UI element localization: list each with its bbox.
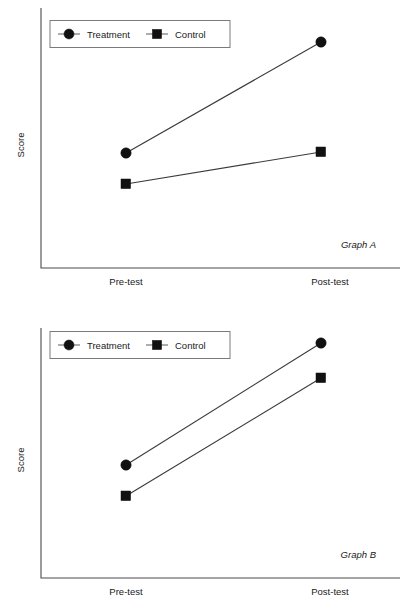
circle-marker-icon <box>64 29 74 39</box>
graph-a-treatment-line <box>126 42 321 153</box>
square-marker-icon <box>152 340 161 349</box>
graph-b-axes <box>41 328 400 578</box>
graph-b-tick-posttest: Post-test <box>311 586 349 597</box>
circle-marker-icon <box>64 340 74 350</box>
graph-a-legend: Treatment Control <box>50 21 230 48</box>
square-marker-icon <box>152 29 161 38</box>
graph-b-treatment-point-pretest <box>121 460 131 470</box>
graph-b-plot: Treatment Control Score Pre-test Post-te… <box>0 310 413 610</box>
graph-b-treatment-line <box>126 343 321 465</box>
graph-a-y-axis-label: Score <box>15 133 26 158</box>
graph-a-legend-treatment-label: Treatment <box>87 29 130 40</box>
graph-b-legend-treatment-label: Treatment <box>87 340 130 351</box>
graph-a-tick-pretest: Pre-test <box>109 276 143 287</box>
graph-a-legend-control-label: Control <box>175 29 206 40</box>
graph-b-control-point-pretest <box>121 491 131 501</box>
graph-b-control-point-posttest <box>316 373 326 383</box>
graph-b-y-axis-label: Score <box>15 448 26 473</box>
graph-b-legend-control-label: Control <box>175 340 206 351</box>
graph-a-tick-posttest: Post-test <box>311 276 349 287</box>
graph-b-tick-pretest: Pre-test <box>109 586 143 597</box>
graph-a-plot: Treatment Control Score Pre-test Post-te… <box>0 0 413 300</box>
figure-two-line-graphs: Treatment Control Score Pre-test Post-te… <box>0 0 413 615</box>
graph-b-treatment-point-posttest <box>316 338 326 348</box>
graph-b-legend: Treatment Control <box>50 332 230 359</box>
graph-a-control-line <box>126 152 321 184</box>
graph-b-annotation: Graph B <box>341 549 377 560</box>
graph-a-control-point-pretest <box>121 179 131 189</box>
graph-a-annotation: Graph A <box>341 239 376 250</box>
graph-a-treatment-point-posttest <box>316 37 326 47</box>
panel-graph-a: Treatment Control Score Pre-test Post-te… <box>0 0 413 300</box>
graph-a-treatment-point-pretest <box>121 148 131 158</box>
graph-a-control-point-posttest <box>316 147 326 157</box>
graph-b-control-line <box>126 378 321 496</box>
panel-graph-b: Treatment Control Score Pre-test Post-te… <box>0 310 413 610</box>
